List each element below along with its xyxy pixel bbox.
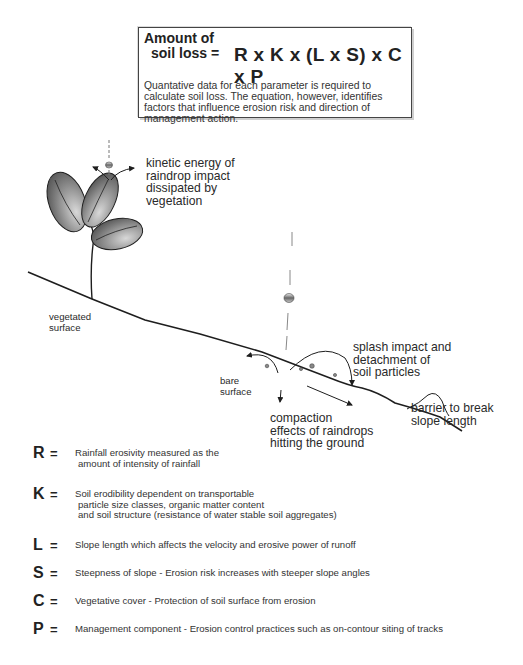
soil-particle (333, 373, 336, 376)
splash-arrow-left (247, 355, 278, 373)
raindrop-icon (106, 162, 113, 168)
soil-particle (310, 364, 315, 369)
soil-particle (299, 367, 302, 370)
annotation-kinetic-energy: kinetic energy of raindrop impact dissip… (146, 157, 235, 207)
splash-arrow-right (290, 351, 352, 385)
raindrop-icon-bare (284, 294, 294, 303)
plant-leaves-icon (39, 167, 145, 254)
annotation-barrier: barrier to break slope length (411, 402, 494, 427)
annotation-compaction: compaction effects of raindrops hitting … (270, 412, 373, 450)
runoff-arrow (307, 386, 352, 405)
soil-particle (265, 364, 269, 368)
annotation-vegetated-surface: vegetated surface (49, 312, 91, 333)
annotation-bare-surface: bare surface (220, 376, 251, 397)
annotation-splash-impact: splash impact and detachment of soil par… (353, 341, 451, 379)
compaction-arrow (280, 390, 281, 402)
